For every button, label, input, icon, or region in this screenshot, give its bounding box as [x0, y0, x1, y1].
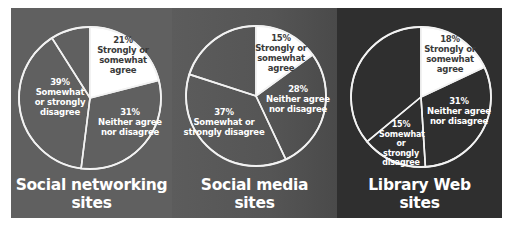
pct-value: 15%	[249, 33, 313, 43]
pct-value: 39%	[29, 77, 91, 87]
pct-value: 37%	[182, 107, 266, 117]
slice-label-neither: 31% Neither agree nor disagree	[95, 107, 165, 137]
slice-label-agree: 18% Strongly or somewhat agree	[418, 34, 482, 74]
label-line: Neither agree	[262, 94, 334, 104]
slice-label-neither: 28% Neither agree nor disagree	[262, 84, 334, 114]
title-line: Social networking	[11, 176, 172, 194]
title-line: Social media	[172, 176, 337, 194]
label-line: nor disagree	[262, 104, 334, 114]
title-line: sites	[172, 194, 337, 212]
label-line: or strongly	[379, 139, 423, 158]
label-line: agree	[91, 65, 155, 75]
pie-panel-social-networking: 21% Strongly or somewhat agree 31% Neith…	[11, 8, 172, 218]
label-line: strongly disagree	[182, 127, 266, 137]
pct-value: 15%	[379, 120, 423, 130]
title-line: sites	[11, 194, 172, 212]
label-line: disagree	[29, 107, 91, 117]
chart-title: Social media sites	[172, 176, 337, 212]
label-line: Somewhat	[29, 87, 91, 97]
pct-value: 21%	[91, 35, 155, 45]
chart-title: Social networking sites	[11, 176, 172, 212]
title-line: Library Web	[337, 176, 502, 194]
chart-title: Library Web sites	[337, 176, 502, 212]
slice-label-disagree: 15% Somewhat or strongly disagree	[379, 120, 423, 168]
label-line: somewhat	[418, 54, 482, 64]
label-line: somewhat	[249, 53, 313, 63]
label-line: Neither agree	[95, 117, 165, 127]
title-line: sites	[337, 194, 502, 212]
label-line: somewhat	[91, 55, 155, 65]
label-line: disagree	[379, 158, 423, 168]
label-line: Somewhat or	[182, 117, 266, 127]
label-line: agree	[418, 64, 482, 74]
label-line: Strongly or	[418, 44, 482, 54]
pct-value: 28%	[262, 84, 334, 94]
pie-panel-library-web: 18% Strongly or somewhat agree 31% Neith…	[337, 8, 502, 218]
pct-value: 18%	[418, 34, 482, 44]
label-line: or strongly	[29, 97, 91, 107]
label-line: agree	[249, 63, 313, 73]
label-line: nor disagree	[423, 116, 495, 126]
pie-panel-social-media: 15% Strongly or somewhat agree 28% Neith…	[172, 8, 337, 218]
label-line: Strongly or	[91, 45, 155, 55]
slice-label-disagree: 39% Somewhat or strongly disagree	[29, 77, 91, 117]
label-line: Somewhat	[379, 130, 423, 140]
pie-slice	[189, 26, 256, 96]
label-line: Strongly or	[249, 43, 313, 53]
label-line: Neither agree	[423, 106, 495, 116]
label-line: nor disagree	[95, 127, 165, 137]
slice-label-agree: 21% Strongly or somewhat agree	[91, 35, 155, 75]
pct-value: 31%	[423, 96, 495, 106]
slice-label-disagree: 37% Somewhat or strongly disagree	[182, 107, 266, 137]
slice-label-agree: 15% Strongly or somewhat agree	[249, 33, 313, 73]
slice-label-neither: 31% Neither agree nor disagree	[423, 96, 495, 126]
pct-value: 31%	[95, 107, 165, 117]
